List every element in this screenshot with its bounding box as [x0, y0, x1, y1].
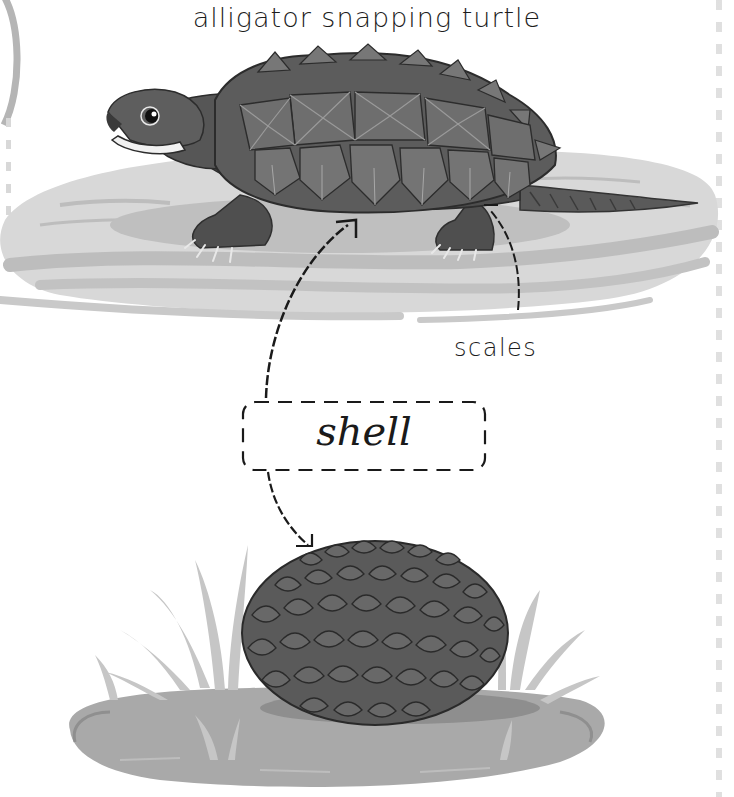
pangolin-ball	[242, 541, 508, 725]
pangolin-illustration	[0, 0, 734, 797]
